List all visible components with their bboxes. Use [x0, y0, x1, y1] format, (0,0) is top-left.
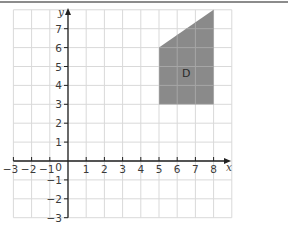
x-axis-label: x — [226, 161, 232, 173]
x-tick-label: 2 — [101, 163, 108, 175]
origin-label: 0 — [55, 161, 62, 173]
y-tick-label: 1 — [55, 136, 62, 148]
shape-label: D — [182, 67, 190, 80]
y-tick-label: 3 — [55, 98, 62, 110]
x-tick-label: 5 — [156, 163, 163, 175]
coordinate-figure: D−3−2−112345678−3−2−112345670xy — [0, 0, 288, 226]
y-tick-label: 6 — [55, 42, 62, 54]
x-tick-label: −2 — [21, 163, 36, 175]
y-tick-label: −3 — [47, 212, 62, 224]
x-tick-label: 7 — [192, 163, 199, 175]
y-axis-arrow-icon — [65, 8, 71, 15]
y-axis-label: y — [57, 6, 65, 18]
x-tick-label: 1 — [83, 163, 90, 175]
x-tick-label: 8 — [210, 163, 217, 175]
y-tick-label: 4 — [55, 79, 62, 91]
x-tick-label: 4 — [137, 163, 144, 175]
x-tick-label: 3 — [119, 163, 126, 175]
x-tick-label: 6 — [174, 163, 181, 175]
y-tick-label: 7 — [55, 23, 62, 35]
y-tick-label: 2 — [55, 117, 62, 129]
y-tick-label: −2 — [47, 193, 62, 205]
y-tick-label: −1 — [47, 174, 62, 186]
coordinate-grid-plot: D−3−2−112345678−3−2−112345670xy — [0, 0, 288, 226]
shape-d — [159, 10, 214, 105]
x-tick-label: −3 — [3, 163, 18, 175]
y-tick-label: 5 — [55, 61, 62, 73]
